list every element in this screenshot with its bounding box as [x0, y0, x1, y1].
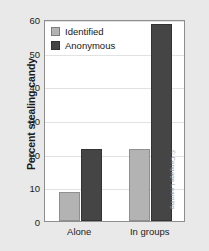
bar-alone-anonymous: [81, 149, 102, 221]
y-axis-tick-label: 30: [14, 116, 40, 127]
legend: Identified Anonymous: [51, 25, 115, 53]
y-axis-tick-label: 40: [14, 82, 40, 93]
legend-label-identified: Identified: [65, 26, 104, 37]
x-axis-tick-label: Alone: [67, 226, 91, 237]
y-axis-tick-label: 10: [14, 183, 40, 194]
bar-in-groups-identified: [129, 149, 150, 221]
legend-item-identified: Identified: [51, 25, 115, 38]
legend-label-anonymous: Anonymous: [65, 40, 115, 51]
y-axis-tick-labels: 0102030405060: [14, 14, 40, 226]
bar-chart-figure: Percent stealing candy 0102030405060 Ide…: [0, 0, 209, 251]
plot-area: Identified Anonymous: [44, 20, 185, 222]
bar-alone-identified: [59, 192, 80, 221]
x-axis-tick-labels: AloneIn groups: [44, 226, 185, 240]
y-axis-tick-label: 20: [14, 149, 40, 160]
x-axis-tick-label: In groups: [130, 226, 170, 237]
legend-item-anonymous: Anonymous: [51, 39, 115, 52]
credit-watermark: © Cengage Learning: [170, 150, 176, 240]
y-axis-tick-label: 60: [14, 15, 40, 26]
y-axis-tick-label: 50: [14, 48, 40, 59]
y-axis-tick-label: 0: [14, 217, 40, 228]
legend-swatch-icon-anonymous: [51, 41, 60, 50]
legend-swatch-icon-identified: [51, 27, 60, 36]
